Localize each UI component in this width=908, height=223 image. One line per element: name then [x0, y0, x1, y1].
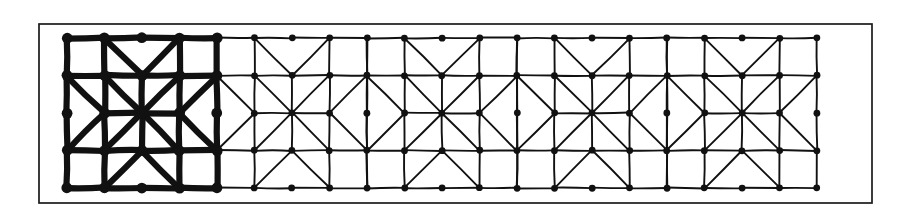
- lattice-vertex-dot: [476, 184, 483, 191]
- lattice-vertex-dot: [251, 185, 258, 192]
- geometric-pattern-diagram: [0, 0, 908, 223]
- lattice-vertex-dot: [701, 147, 708, 154]
- lattice-vertex-dot: [589, 109, 596, 116]
- pattern-segment: [143, 188, 179, 189]
- pattern-segment: [254, 38, 292, 39]
- pattern-segment: [704, 113, 705, 150]
- lattice-vertex-dot: [137, 70, 148, 81]
- pattern-segment: [779, 38, 780, 76]
- pattern-segment: [817, 38, 818, 75]
- lattice-vertex-dot: [174, 33, 185, 44]
- lattice-vertex-dot: [701, 35, 708, 42]
- lattice-vertex-dot: [288, 185, 295, 192]
- lattice-vertex-dot: [701, 184, 708, 191]
- lattice-vertex-dot: [363, 110, 370, 117]
- lattice-vertex-dot: [626, 147, 633, 154]
- pattern-segment: [254, 75, 255, 112]
- lattice-vertex-dot: [62, 145, 73, 156]
- lattice-vertex-dot: [251, 110, 258, 117]
- lattice-vertex-dot: [476, 35, 483, 42]
- pattern-segment: [255, 113, 292, 114]
- lattice-vertex-dot: [551, 109, 558, 116]
- lattice-vertex-dot: [439, 35, 446, 42]
- pattern-segment: [367, 38, 368, 76]
- lattice-vertex-dot: [363, 147, 370, 154]
- lattice-vertex-dot: [776, 35, 783, 42]
- pattern-segment: [667, 75, 705, 76]
- lattice-vertex-dot: [776, 147, 783, 154]
- lattice-vertex-dot: [813, 147, 820, 154]
- pattern-segment: [479, 76, 480, 113]
- lattice-vertex-dot: [99, 182, 110, 193]
- pattern-segment: [142, 113, 143, 150]
- pattern-segment: [479, 188, 516, 189]
- lattice-vertex-dot: [739, 185, 746, 192]
- pattern-segment: [405, 150, 442, 151]
- pattern-segment: [592, 188, 630, 189]
- pattern-segment: [555, 188, 593, 189]
- pattern-segment: [817, 113, 818, 150]
- pattern-segment: [404, 150, 405, 188]
- lattice-vertex-dot: [251, 34, 258, 41]
- lattice-vertex-dot: [99, 32, 110, 43]
- lattice-vertex-dot: [288, 147, 295, 154]
- pattern-segment: [704, 150, 705, 188]
- pattern-segment: [554, 150, 555, 188]
- pattern-segment: [442, 75, 480, 76]
- lattice-vertex-dot: [701, 72, 708, 79]
- pattern-segment: [330, 75, 331, 113]
- lattice-vertex-dot: [664, 72, 671, 79]
- lattice-vertex-dot: [211, 108, 222, 119]
- lattice-vertex-dot: [476, 110, 483, 117]
- lattice-vertex-dot: [776, 72, 783, 79]
- lattice-vertex-dot: [438, 110, 445, 117]
- lattice-vertex-dot: [626, 35, 633, 42]
- pattern-segment: [105, 75, 142, 76]
- lattice-vertex-dot: [136, 183, 147, 194]
- lattice-vertex-dot: [514, 147, 521, 154]
- pattern-segment: [254, 150, 292, 151]
- lattice-vertex-dot: [326, 185, 333, 192]
- pattern-segment: [329, 113, 330, 151]
- lattice-vertex-dot: [739, 109, 746, 116]
- lattice-vertex-dot: [61, 182, 72, 193]
- pattern-segment: [667, 188, 705, 189]
- pattern-segment: [254, 188, 292, 189]
- pattern-segment: [329, 151, 330, 188]
- lattice-vertex-dot: [551, 72, 558, 79]
- lattice-vertex-dot: [364, 34, 371, 41]
- lattice-vertex-dot: [401, 147, 408, 154]
- lattice-vertex-dot: [401, 72, 408, 79]
- lattice-vertex-dot: [739, 35, 746, 42]
- figure-root: [0, 0, 908, 223]
- lattice-vertex-dot: [513, 72, 520, 79]
- lattice-vertex-dot: [326, 72, 333, 79]
- pattern-segment: [592, 75, 593, 112]
- pattern-segment: [180, 38, 217, 39]
- pattern-segment: [742, 113, 743, 151]
- pattern-segment: [780, 75, 818, 76]
- lattice-vertex-dot: [701, 109, 708, 116]
- lattice-vertex-dot: [289, 109, 296, 116]
- pattern-segment: [104, 113, 105, 151]
- lattice-vertex-dot: [174, 145, 185, 156]
- pattern-segment: [555, 150, 593, 151]
- pattern-segment: [779, 150, 816, 151]
- lattice-vertex-dot: [589, 72, 596, 79]
- pattern-segment: [180, 188, 217, 189]
- lattice-vertex-dot: [174, 70, 185, 81]
- pattern-segment: [779, 113, 780, 151]
- lattice-vertex-dot: [814, 110, 821, 117]
- lattice-vertex-dot: [738, 147, 745, 154]
- pattern-segment: [479, 113, 480, 151]
- pattern-segment: [442, 113, 443, 150]
- pattern-segment: [667, 38, 668, 76]
- lattice-vertex-dot: [814, 72, 821, 79]
- lattice-vertex-dot: [99, 70, 110, 81]
- lattice-vertex-dot: [776, 110, 783, 117]
- lattice-vertex-dot: [551, 147, 558, 154]
- lattice-vertex-dot: [289, 72, 296, 79]
- lattice-vertex-dot: [626, 72, 633, 79]
- pattern-segment: [67, 114, 68, 150]
- lattice-vertex-dot: [62, 33, 73, 44]
